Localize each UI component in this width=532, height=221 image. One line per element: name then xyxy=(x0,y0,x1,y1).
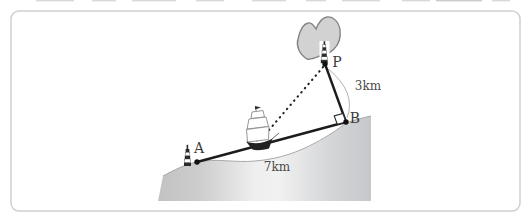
point-p-dot xyxy=(322,61,327,66)
label-distance-ab: 7km xyxy=(264,160,291,174)
figure-root: A B P 3km 7km xyxy=(0,0,532,221)
label-point-a: A xyxy=(193,140,205,156)
label-point-p: P xyxy=(332,54,341,70)
survey-tower-icon xyxy=(320,41,330,64)
label-point-b: B xyxy=(350,110,360,126)
label-distance-pb: 3km xyxy=(355,79,382,93)
point-b-dot xyxy=(343,119,348,124)
point-a-dot xyxy=(194,159,199,164)
geometry-diagram-canvas: A B P 3km 7km xyxy=(0,0,532,221)
cropped-content-remnant xyxy=(36,0,510,1)
